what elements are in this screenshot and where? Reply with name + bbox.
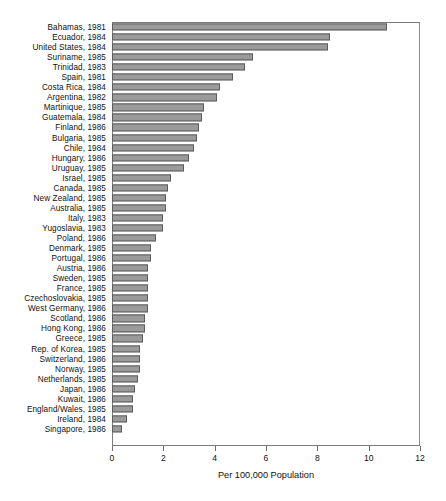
x-tick-mark	[112, 446, 113, 451]
bar-row: Czechoslovakia, 1985	[0, 293, 446, 303]
bar-row: Sweden, 1985	[0, 273, 446, 283]
bar-category-label: Chile, 1984	[64, 143, 106, 152]
bar-row: Bulgaria, 1985	[0, 133, 446, 143]
bar-category-label: Rep. of Korea, 1985	[31, 344, 106, 353]
bar-row: Hungary, 1986	[0, 153, 446, 163]
bar-row: Canada, 1985	[0, 183, 446, 193]
bar-category-label: Suriname, 1985	[47, 53, 106, 62]
bar	[112, 325, 145, 332]
bar-track	[112, 82, 420, 92]
bar-row: Guatemala, 1984	[0, 112, 446, 122]
bar-row: Martinique, 1985	[0, 102, 446, 112]
bar-row: Chile, 1984	[0, 143, 446, 153]
bar	[112, 255, 151, 262]
bar-category-label: Finland, 1986	[55, 123, 106, 132]
bar-rows: Bahamas, 1981Ecuador, 1984United States,…	[0, 22, 446, 446]
bar-track	[112, 333, 420, 343]
bar	[112, 33, 330, 40]
x-tick-label: 2	[161, 453, 166, 463]
x-tick-mark	[266, 446, 267, 451]
bar-track	[112, 122, 420, 132]
bar-category-label: New Zealand, 1985	[34, 193, 106, 202]
bar-row: Argentina, 1982	[0, 92, 446, 102]
bar-category-label: Yugoslavia, 1983	[42, 223, 106, 232]
bar-track	[112, 72, 420, 82]
bar	[112, 194, 166, 201]
bar-category-label: Poland, 1986	[57, 234, 106, 243]
bar-track	[112, 213, 420, 223]
bar-row: West Germany, 1986	[0, 303, 446, 313]
bar-track	[112, 32, 420, 42]
x-tick-mark	[163, 446, 164, 451]
bar-category-label: West Germany, 1986	[28, 304, 106, 313]
bar-track	[112, 193, 420, 203]
bar	[112, 23, 387, 30]
bar	[112, 285, 148, 292]
bar-category-label: Guatemala, 1984	[42, 113, 106, 122]
bar-category-label: Switzerland, 1986	[40, 354, 106, 363]
bar-row: Bahamas, 1981	[0, 22, 446, 32]
bar	[112, 104, 204, 111]
bar-category-label: Denmark, 1985	[49, 244, 106, 253]
bar	[112, 265, 148, 272]
bar-track	[112, 404, 420, 414]
bar-category-label: Trinidad, 1983	[53, 63, 106, 72]
bar-row: Poland, 1986	[0, 233, 446, 243]
bar-track	[112, 133, 420, 143]
bar-track	[112, 173, 420, 183]
bar-row: Greece, 1985	[0, 333, 446, 343]
bar-track	[112, 143, 420, 153]
bar	[112, 335, 143, 342]
bar-row: Japan, 1986	[0, 384, 446, 394]
x-tick-label: 0	[110, 453, 115, 463]
bar-row: England/Wales, 1985	[0, 404, 446, 414]
bar-track	[112, 344, 420, 354]
bar	[112, 345, 140, 352]
bar	[112, 204, 166, 211]
bar-category-label: Bahamas, 1981	[48, 23, 106, 32]
bar-category-label: Japan, 1986	[60, 384, 106, 393]
bar-track	[112, 233, 420, 243]
bar-row: France, 1985	[0, 283, 446, 293]
bar-track	[112, 283, 420, 293]
bar	[112, 425, 122, 432]
bar-track	[112, 293, 420, 303]
bar	[112, 94, 217, 101]
bar-category-label: United States, 1984	[33, 43, 106, 52]
bar-category-label: Norway, 1985	[55, 364, 106, 373]
x-tick-label: 8	[315, 453, 320, 463]
bar-row: Yugoslavia, 1983	[0, 223, 446, 233]
bar-category-label: France, 1985	[57, 284, 106, 293]
bar-row: Ecuador, 1984	[0, 32, 446, 42]
bar-category-label: Portugal, 1986	[52, 254, 106, 263]
bar-track	[112, 22, 420, 32]
bar	[112, 355, 140, 362]
bar	[112, 114, 202, 121]
bar-category-label: Australia, 1985	[50, 203, 106, 212]
bar-row: Italy, 1983	[0, 213, 446, 223]
bar-category-label: Costa Rica, 1984	[42, 83, 106, 92]
bar-row: Trinidad, 1983	[0, 62, 446, 72]
bar-track	[112, 374, 420, 384]
bar-track	[112, 42, 420, 52]
bar	[112, 375, 138, 382]
bar-category-label: Israel, 1985	[62, 173, 106, 182]
bar	[112, 395, 133, 402]
bar-category-label: Scotland, 1986	[50, 314, 106, 323]
bar	[112, 224, 163, 231]
bar-row: Hong Kong, 1986	[0, 323, 446, 333]
bar-row: Norway, 1985	[0, 364, 446, 374]
x-tick-label: 12	[415, 453, 425, 463]
bar-row: Scotland, 1986	[0, 313, 446, 323]
bar	[112, 214, 163, 221]
x-axis-title: Per 100,000 Population	[112, 470, 420, 480]
bar-row: Singapore, 1986	[0, 424, 446, 434]
bar	[112, 134, 197, 141]
bar	[112, 295, 148, 302]
bar	[112, 164, 184, 171]
x-tick-label: 6	[264, 453, 269, 463]
bar-category-label: Spain, 1981	[61, 73, 106, 82]
bar-row: Kuwait, 1986	[0, 394, 446, 404]
bar	[112, 184, 168, 191]
bar-category-label: Uruguay, 1985	[52, 163, 106, 172]
